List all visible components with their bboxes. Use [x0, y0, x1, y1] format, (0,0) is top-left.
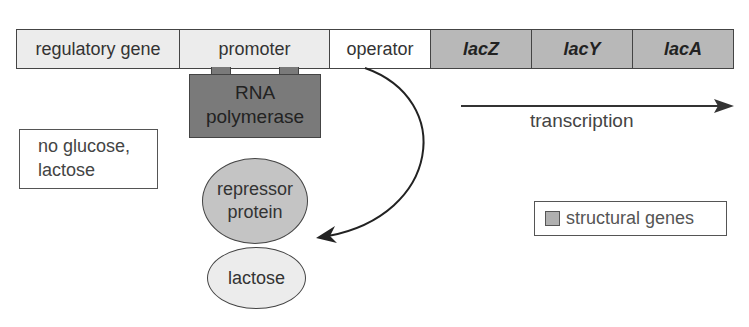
arrows-layer: [0, 0, 749, 327]
transcription-label: transcription: [530, 110, 634, 132]
legend-label: structural genes: [566, 208, 694, 229]
curved-arrow-icon: [328, 68, 424, 236]
legend-box: structural genes: [534, 201, 727, 236]
legend-swatch-icon: [545, 211, 560, 226]
